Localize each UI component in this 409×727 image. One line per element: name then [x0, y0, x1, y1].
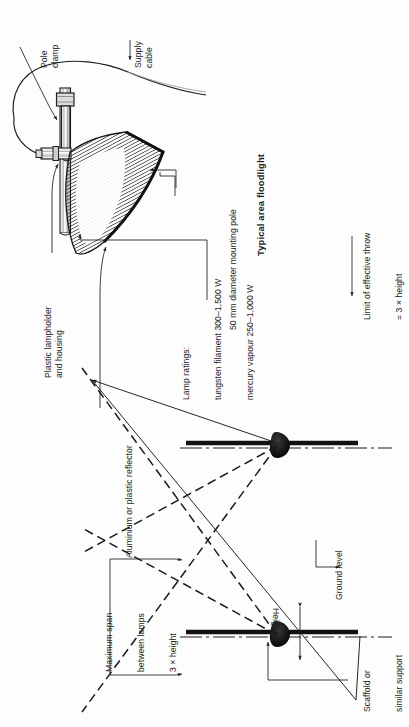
- label-ground-level: Ground level: [313, 550, 366, 600]
- lamp-head-upper: [270, 432, 290, 458]
- leader-lamp-ratings-2: [160, 172, 175, 176]
- leader-lampholder: [52, 164, 58, 253]
- figure-caption: Typical area floodlight: [235, 154, 288, 256]
- label-max-span: Maximum span between lamps 3 × height: [83, 613, 200, 672]
- label-lampholder: Plastic lampholder and housing: [22, 306, 86, 378]
- fixture-assembly: [13, 61, 206, 254]
- cable-highlight: [128, 72, 206, 92]
- label-height: Height: [249, 608, 302, 633]
- label-reflector: Aluminium or plastic reflector: [103, 445, 156, 558]
- label-limit-of-throw: Limit of effective throw = 3 × height: [341, 233, 409, 320]
- leader-scaffold: [268, 642, 348, 680]
- supply-cable-curve: [13, 61, 206, 118]
- label-supply-cable: Supply cable: [112, 41, 176, 68]
- label-scaffold: Scaffold or similar support: [341, 655, 409, 712]
- lampholder-housing: [36, 147, 71, 161]
- label-pole-clamp: Pole clamp: [18, 45, 82, 68]
